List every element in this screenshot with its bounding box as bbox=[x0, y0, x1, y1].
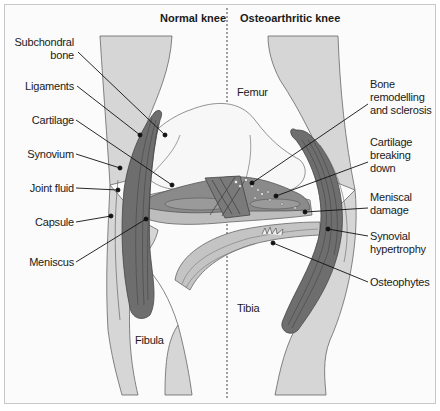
label-capsule: Capsule bbox=[14, 216, 74, 229]
label-fibula: Fibula bbox=[135, 334, 164, 347]
fibula bbox=[165, 325, 192, 395]
label-osteophytes: Osteophytes bbox=[370, 276, 430, 289]
label-cartilage: Cartilage bbox=[14, 114, 74, 127]
label-synovial-hypertrophy: Synovialhypertrophy bbox=[370, 230, 426, 256]
label-tibia: Tibia bbox=[237, 302, 259, 315]
title-osteoarthritic-knee: Osteoarthritic knee bbox=[240, 12, 340, 24]
label-synovium: Synovium bbox=[14, 148, 74, 161]
label-meniscus: Meniscus bbox=[14, 256, 74, 269]
tibial-plateau bbox=[175, 222, 320, 290]
title-normal-knee: Normal knee bbox=[160, 12, 226, 24]
label-joint-fluid: Joint fluid bbox=[14, 182, 74, 195]
label-subchondral-bone: Subchondralbone bbox=[14, 36, 74, 62]
label-bone-remodelling: Boneremodellingand sclerosis bbox=[370, 78, 432, 117]
label-femur: Femur bbox=[237, 86, 268, 99]
label-meniscal-damage: Meniscaldamage bbox=[370, 191, 412, 217]
label-cartilage-breaking-down: Cartilagebreakingdown bbox=[370, 136, 412, 175]
label-ligaments: Ligaments bbox=[14, 80, 74, 93]
